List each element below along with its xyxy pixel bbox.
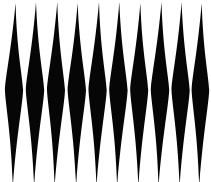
artwork-canvas xyxy=(0,0,211,182)
diamond-spindle-pattern-graphic xyxy=(0,0,211,182)
